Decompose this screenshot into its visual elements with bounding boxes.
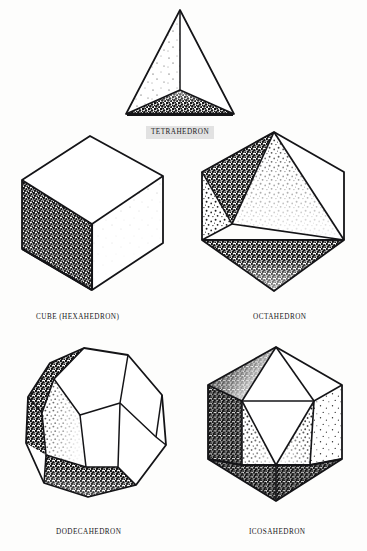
solid-octahedron bbox=[196, 128, 352, 298]
platonic-solids-figure: TETRAHEDRON bbox=[0, 0, 367, 551]
caption-dodecahedron: DODECAHEDRON bbox=[56, 529, 121, 536]
octahedron-bottom-highlight bbox=[202, 240, 344, 291]
solid-tetrahedron bbox=[118, 6, 242, 122]
caption-icosahedron: ICOSAHEDRON bbox=[249, 529, 305, 536]
figure-page: TETRAHEDRON bbox=[0, 0, 367, 551]
solid-icosahedron bbox=[198, 343, 352, 507]
solid-dodecahedron bbox=[20, 345, 172, 505]
solid-cube bbox=[18, 132, 168, 295]
caption-octahedron: OCTAHEDRON bbox=[253, 314, 306, 321]
caption-cube: CUBE (HEXAHEDRON) bbox=[36, 314, 119, 321]
